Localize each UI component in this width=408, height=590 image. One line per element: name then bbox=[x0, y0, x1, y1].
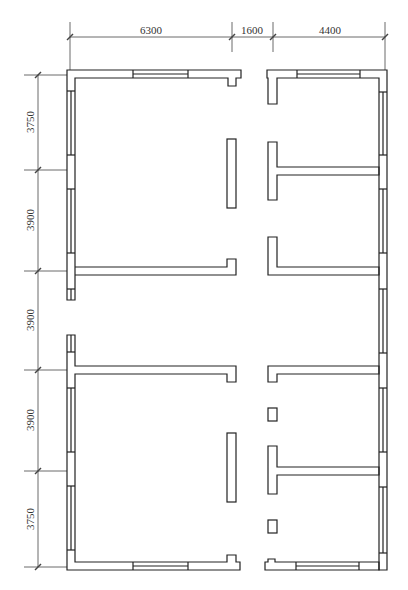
left-wall-lower bbox=[67, 335, 240, 570]
pier-right-2 bbox=[268, 520, 277, 533]
bottom-window-right bbox=[296, 562, 359, 570]
partition-lower-right-t bbox=[268, 446, 379, 494]
left-wall-windows-upper bbox=[67, 91, 75, 300]
dim-label-top-1: 6300 bbox=[140, 24, 163, 36]
bottom-wall-right bbox=[265, 559, 379, 570]
column-upper-left bbox=[227, 139, 236, 208]
column-lower-left bbox=[227, 433, 236, 502]
dim-label-left-1: 3750 bbox=[24, 111, 36, 134]
bottom-window-left bbox=[133, 562, 188, 570]
dim-label-left-4: 3900 bbox=[24, 409, 36, 432]
partition-upper-right-t bbox=[268, 142, 379, 200]
dim-label-top-2: 1600 bbox=[241, 24, 264, 36]
dim-label-left-2: 3900 bbox=[24, 209, 36, 232]
partition-mid-right-upper bbox=[268, 237, 379, 275]
dim-label-top-3: 4400 bbox=[319, 24, 342, 36]
right-wall-windows bbox=[379, 92, 387, 553]
partition-mid-right-lower bbox=[268, 366, 379, 382]
top-window-left bbox=[133, 70, 188, 78]
partition-upper-left bbox=[75, 259, 236, 275]
left-wall-windows-lower bbox=[67, 335, 75, 550]
floor-plan-drawing: 6300 1600 4400 3750 3900 3900 3900 3750 bbox=[0, 0, 408, 590]
dim-label-left-3: 3900 bbox=[24, 309, 36, 332]
top-wall-right bbox=[267, 70, 387, 570]
top-wall-left bbox=[67, 70, 241, 300]
top-window-right bbox=[297, 70, 360, 78]
pier-right-1 bbox=[268, 408, 277, 421]
dim-label-left-5: 3750 bbox=[24, 508, 36, 531]
